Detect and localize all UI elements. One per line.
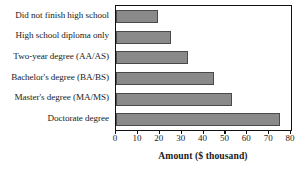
x-tick-label: 80	[286, 134, 295, 143]
x-tick-label: 10	[132, 134, 141, 143]
x-tick-label: 20	[154, 134, 163, 143]
bar	[116, 10, 158, 23]
bar-series	[116, 6, 291, 130]
x-axis: 01020304050607080	[115, 130, 291, 148]
x-axis-title: Amount ($ thousand)	[115, 150, 291, 161]
bar	[116, 51, 188, 64]
category-label: Two-year degree (AA/AS)	[0, 46, 112, 67]
x-tick-label: 50	[220, 134, 229, 143]
bar-chart: Did not finish high school High school d…	[0, 0, 304, 170]
category-label: High school diploma only	[0, 26, 112, 47]
category-label: Did not finish high school	[0, 5, 112, 26]
bar	[116, 93, 232, 106]
x-tick-label: 70	[264, 134, 273, 143]
x-tick-label: 0	[113, 134, 118, 143]
bar-row	[116, 89, 291, 110]
bar-row	[116, 27, 291, 48]
bar	[116, 31, 171, 44]
x-tick-label: 40	[198, 134, 207, 143]
x-tick-label: 60	[242, 134, 251, 143]
category-label: Master's degree (MA/MS)	[0, 88, 112, 109]
category-axis-labels: Did not finish high school High school d…	[0, 5, 112, 129]
bar-row	[116, 47, 291, 68]
bar	[116, 113, 280, 126]
bar-row	[116, 109, 291, 130]
x-tick-label: 30	[176, 134, 185, 143]
bar-row	[116, 68, 291, 89]
plot-area	[115, 5, 292, 131]
bar-row	[116, 6, 291, 27]
category-label: Doctorate degree	[0, 108, 112, 129]
bar	[116, 72, 214, 85]
category-label: Bachelor's degree (BA/BS)	[0, 67, 112, 88]
